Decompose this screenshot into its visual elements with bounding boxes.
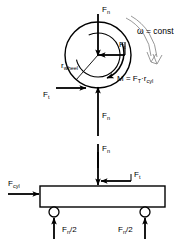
support-beam [40,186,165,207]
diagram-svg [0,0,187,244]
label-radius-wheel: rwheel [61,62,78,70]
label-force-normal-up: Fn [102,112,110,120]
label-reaction-right: Fn/2 [118,226,133,234]
label-force-normal-top: Fn [102,6,110,14]
label-force-tangential-contact: Ft [43,91,49,99]
label-force-tangential-beam: Ft [134,171,140,179]
label-force-normal-down: Fn [102,145,110,153]
pin-support-right [140,207,150,217]
diagram-canvas: Fn Ft rwheel ω = const M = FT·rcyl Ft Fn… [0,0,187,244]
label-omega-const: ω = const [137,27,174,36]
label-reaction-left: Fn/2 [62,226,77,234]
label-moment-equation: M = FT·rcyl [117,75,153,83]
pin-support-left [49,207,59,217]
label-force-cylinder: Fcyl [8,180,20,188]
label-force-tangential-wheel: Ft [119,41,125,49]
